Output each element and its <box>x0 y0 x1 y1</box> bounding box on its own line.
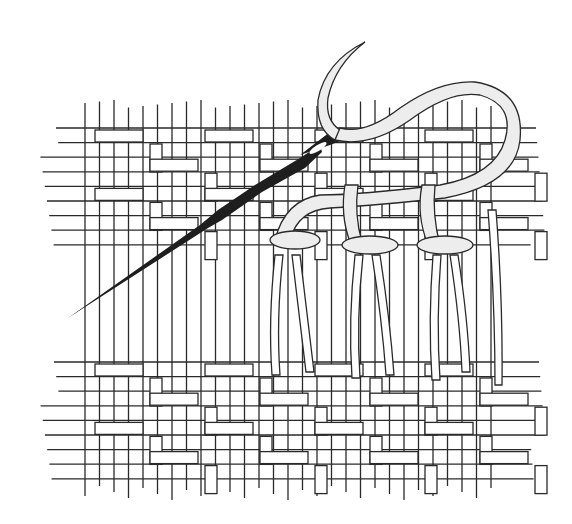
illustration <box>0 0 572 524</box>
stitching-diagram <box>0 0 572 524</box>
woven-fabric <box>40 100 547 500</box>
